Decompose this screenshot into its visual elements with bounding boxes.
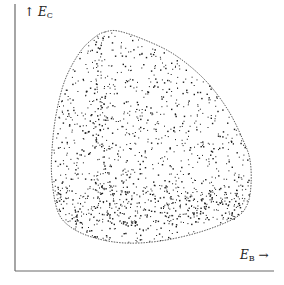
y-axis-subscript: C [47,11,53,20]
scatter-points [54,33,250,243]
up-arrow-icon: ↑ [24,5,34,19]
x-axis-label: EB → [240,248,269,263]
right-arrow-icon: → [258,248,268,262]
x-axis-subscript: B [249,254,255,263]
y-axis-label: ↑ EC [24,5,53,20]
y-axis-symbol: E [38,5,47,19]
x-axis-symbol: E [240,248,249,262]
scatter-figure [0,0,284,285]
